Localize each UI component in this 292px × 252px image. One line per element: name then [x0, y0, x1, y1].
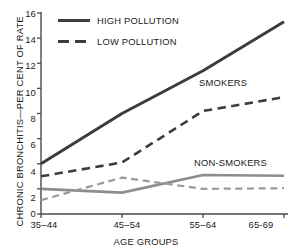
- series-line-3: [41, 178, 284, 201]
- y-tick-label-0: 0: [14, 208, 36, 219]
- x-axis-title: AGE GROUPS: [0, 236, 292, 247]
- y-tick-label-2: 2: [14, 192, 36, 203]
- y-tick-label-10: 10: [14, 87, 36, 98]
- x-tick-label-65-69: 65-69: [231, 219, 291, 230]
- y-tick-label-16: 16: [14, 8, 36, 19]
- y-tick-label-8: 8: [14, 113, 36, 124]
- y-tick-label-14: 14: [14, 34, 36, 45]
- chart-figure: CHRONIC BRONCHITIS—PER CENT OF RATE AGE …: [0, 0, 292, 252]
- legend-label-high-pollution: HIGH POLLUTION: [97, 15, 179, 26]
- y-tick-label-4: 4: [14, 166, 36, 177]
- data-series-group: [41, 22, 284, 200]
- legend-label-low-pollution: LOW POLLUTION: [97, 36, 177, 47]
- x-tick-label-45-54: 45–54: [97, 219, 157, 230]
- x-tick-label-55-64: 55–64: [173, 219, 233, 230]
- y-tick-label-12: 12: [14, 60, 36, 71]
- annotation-smokers: SMOKERS: [199, 77, 247, 88]
- y-tick-label-6: 6: [14, 139, 36, 150]
- legend-swatches: [58, 21, 90, 42]
- x-tick-label-35-44: 35–44: [14, 219, 74, 230]
- annotation-non-smokers: NON-SMOKERS: [194, 157, 267, 168]
